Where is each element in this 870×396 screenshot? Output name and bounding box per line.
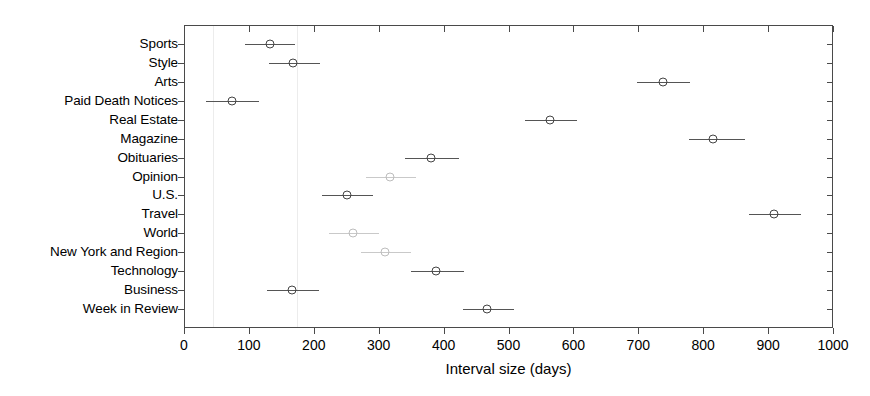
x-axis-tick-top — [314, 26, 315, 32]
point-marker — [708, 134, 717, 143]
x-axis-tick-top — [184, 26, 185, 32]
x-axis-tick-label: 1000 — [817, 337, 848, 353]
x-axis-tick-label: 600 — [562, 337, 585, 353]
x-axis-tick-label: 200 — [302, 337, 325, 353]
point-marker — [228, 96, 237, 105]
x-axis-tick — [768, 328, 769, 334]
category-label-travel: Travel — [0, 207, 178, 221]
y-axis-tick — [178, 309, 184, 310]
category-label-magazine: Magazine — [0, 132, 178, 146]
x-axis-tick — [379, 328, 380, 334]
right-edge-tick — [827, 82, 833, 83]
category-label-paid-death-notices: Paid Death Notices — [0, 94, 178, 108]
y-axis-tick — [178, 82, 184, 83]
category-label-real-estate: Real Estate — [0, 113, 178, 127]
y-axis-tick — [178, 139, 184, 140]
category-label-world: World — [0, 226, 178, 240]
x-axis-tick — [833, 328, 834, 334]
category-label-style: Style — [0, 56, 178, 70]
right-edge-tick — [827, 252, 833, 253]
category-label-arts: Arts — [0, 75, 178, 89]
point-marker — [546, 115, 555, 124]
x-axis-tick-top — [249, 26, 250, 32]
y-axis-tick — [178, 63, 184, 64]
category-label-opinion: Opinion — [0, 170, 178, 184]
x-axis-tick — [638, 328, 639, 334]
scan-artifact-line — [213, 26, 214, 327]
x-axis-tick-top — [703, 26, 704, 32]
right-edge-tick — [827, 309, 833, 310]
x-axis-tick-label: 900 — [756, 337, 779, 353]
point-marker — [381, 248, 390, 257]
x-axis-tick — [509, 328, 510, 334]
right-edge-tick — [827, 101, 833, 102]
x-axis-tick-label: 700 — [627, 337, 650, 353]
x-axis-title: Interval size (days) — [184, 360, 833, 378]
right-edge-tick — [827, 177, 833, 178]
x-axis-tick-top — [573, 26, 574, 32]
y-axis-tick — [178, 120, 184, 121]
y-axis-tick — [178, 290, 184, 291]
right-edge-tick — [827, 271, 833, 272]
y-axis-tick — [178, 101, 184, 102]
interval-size-dot-chart: SportsStyleArtsPaid Death NoticesReal Es… — [0, 0, 870, 396]
category-label-sports: Sports — [0, 37, 178, 51]
x-axis-tick-top — [444, 26, 445, 32]
y-axis-tick — [178, 214, 184, 215]
x-axis-tick-label: 500 — [497, 337, 520, 353]
x-axis-tick-top — [833, 26, 834, 32]
x-axis-tick — [314, 328, 315, 334]
point-marker — [287, 286, 296, 295]
x-axis-tick-top — [768, 26, 769, 32]
category-label-new-york-and-region: New York and Region — [0, 245, 178, 259]
category-label-week-in-review: Week in Review — [0, 302, 178, 316]
x-axis-tick-top — [638, 26, 639, 32]
point-marker — [483, 305, 492, 314]
x-axis-tick-top — [379, 26, 380, 32]
right-edge-tick — [827, 195, 833, 196]
category-label-technology: Technology — [0, 264, 178, 278]
point-marker — [265, 39, 274, 48]
point-marker — [342, 191, 351, 200]
x-axis-tick — [249, 328, 250, 334]
plot-area — [184, 25, 833, 328]
y-axis-tick — [178, 271, 184, 272]
x-axis-tick-label: 0 — [180, 337, 188, 353]
right-edge-tick — [827, 139, 833, 140]
right-edge-tick — [827, 120, 833, 121]
category-axis-labels: SportsStyleArtsPaid Death NoticesReal Es… — [0, 25, 178, 328]
category-label-business: Business — [0, 283, 178, 297]
right-edge-tick — [827, 158, 833, 159]
x-axis-tick — [444, 328, 445, 334]
x-axis-tick-label: 400 — [432, 337, 455, 353]
x-axis-tick-label: 800 — [692, 337, 715, 353]
right-edge-tick — [827, 214, 833, 215]
right-edge-tick — [827, 63, 833, 64]
y-axis-tick — [178, 158, 184, 159]
scan-artifact-line — [297, 26, 298, 327]
x-axis-tick — [184, 328, 185, 334]
point-marker — [431, 267, 440, 276]
right-edge-tick — [827, 44, 833, 45]
right-edge-tick — [827, 290, 833, 291]
x-axis-tick-label: 100 — [237, 337, 260, 353]
point-marker — [385, 172, 394, 181]
category-label-u-s: U.S. — [0, 188, 178, 202]
x-axis-tick-label: 300 — [367, 337, 390, 353]
x-axis-tick-top — [509, 26, 510, 32]
x-axis-tick — [703, 328, 704, 334]
point-marker — [289, 58, 298, 67]
category-label-obituaries: Obituaries — [0, 151, 178, 165]
x-axis-tick — [573, 328, 574, 334]
point-marker — [769, 210, 778, 219]
y-axis-tick — [178, 177, 184, 178]
y-axis-tick — [178, 252, 184, 253]
right-edge-tick — [827, 233, 833, 234]
y-axis-tick — [178, 44, 184, 45]
y-axis-tick — [178, 233, 184, 234]
point-marker — [658, 77, 667, 86]
point-marker — [427, 153, 436, 162]
y-axis-tick — [178, 195, 184, 196]
point-marker — [348, 229, 357, 238]
